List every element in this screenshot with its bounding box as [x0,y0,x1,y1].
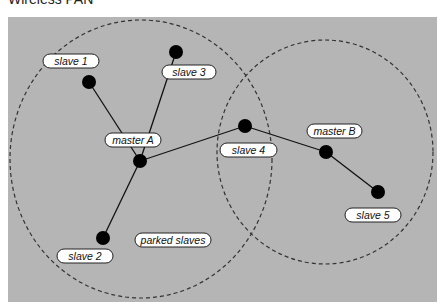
label-parked: parked slaves [135,233,211,247]
label-text: slave 5 [356,209,389,221]
label-text: master A [112,134,154,146]
label-masterB: master B [307,124,362,138]
label-text: slave 3 [172,66,205,78]
node-slave1 [82,75,96,89]
label-slave1: slave 1 [43,54,99,68]
label-text: slave 1 [54,55,87,67]
node-slave4 [238,119,252,133]
label-text: slave 4 [232,144,265,156]
node-slave5 [371,185,385,199]
label-slave2: slave 2 [57,249,113,263]
label-text: master B [313,125,355,137]
label-masterA: master A [105,133,161,147]
label-slave5: slave 5 [345,208,401,222]
label-text: slave 2 [68,250,101,262]
node-masterA [133,154,147,168]
node-slave2 [96,231,110,245]
label-slave3: slave 3 [162,65,216,79]
wireless-pan-diagram: slave 1slave 3master Aslave 4master Bsla… [0,0,442,307]
label-text: parked slaves [140,234,207,246]
label-slave4: slave 4 [220,143,277,157]
node-masterB [319,145,333,159]
node-slave3 [169,45,183,59]
